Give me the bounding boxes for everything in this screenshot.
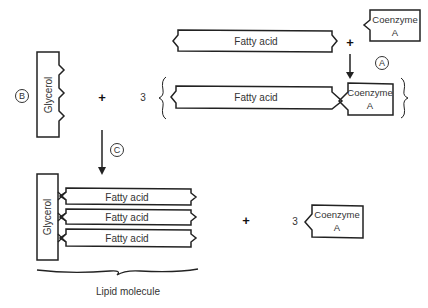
brace-left [159,77,166,119]
lipid-brace [37,269,198,275]
fatty-acid-label-b2: Fatty acid [105,212,148,223]
diagram-canvas [0,0,428,308]
fatty-acid-label-top: Fatty acid [234,36,277,47]
coenzyme-a-label-middle: Coenzyme A [347,86,392,112]
fatty-acid-label-middle: Fatty acid [234,92,277,103]
plus-sign-bottom: + [242,213,250,228]
multiplier-three-middle: 3 [140,92,146,103]
step-a-marker: A [375,56,389,70]
plus-sign-top: + [346,35,354,50]
lipid-molecule-caption: Lipid molecule [96,286,160,297]
arrow-a-head [346,72,354,79]
step-b-marker: B [15,89,29,103]
glycerol-label-bottom: Glycerol [42,199,53,236]
coenzyme-a-label-bottom: Coenzyme A [314,208,359,234]
multiplier-three-bottom: 3 [292,216,298,227]
plus-sign-middle: + [98,90,106,105]
glycerol-label-top: Glycerol [43,77,54,114]
step-c-marker: C [110,143,124,157]
coenzyme-a-label-top: Coenzyme A [372,13,417,39]
fatty-acid-label-b3: Fatty acid [105,233,148,244]
arrow-c-head [98,167,106,175]
brace-right [401,78,408,118]
fatty-acid-label-b1: Fatty acid [105,192,148,203]
